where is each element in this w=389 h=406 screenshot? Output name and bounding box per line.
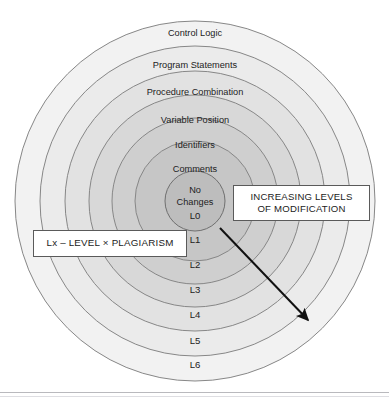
- ring-label-program-statements: Program Statements: [153, 60, 238, 70]
- callout-legend-lx: Lx – LEVEL × PLAGIARISM: [33, 230, 187, 257]
- ring-label-control-logic: Control Logic: [168, 28, 223, 38]
- callout-increasing-levels: INCREASING LEVELS OF MODIFICATION: [233, 185, 370, 221]
- level-label-l2: L2: [190, 259, 201, 270]
- ring-label-procedure-combination: Procedure Combination: [147, 87, 244, 97]
- callout-increasing-line1: INCREASING LEVELS: [236, 191, 367, 203]
- level-label-l5: L5: [190, 335, 201, 346]
- ring-label-comments: Comments: [173, 164, 218, 174]
- callout-increasing-line2: OF MODIFICATION: [236, 203, 367, 215]
- level-label-l3: L3: [190, 284, 201, 295]
- core-label-changes: Changes: [177, 197, 214, 207]
- level-label-l1: L1: [190, 234, 201, 245]
- ring-label-variable-position: Variable Position: [161, 115, 229, 125]
- diagram-canvas: Control Logic Program Statements Procedu…: [0, 0, 389, 406]
- level-label-l6: L6: [190, 359, 201, 370]
- core-label-no: No: [189, 185, 201, 195]
- bottom-divider-secondary: [0, 396, 389, 397]
- ring-label-identifiers: Identifiers: [175, 140, 215, 150]
- level-label-l0: L0: [190, 210, 201, 221]
- level-label-l4: L4: [190, 309, 201, 320]
- bottom-divider: [0, 392, 389, 393]
